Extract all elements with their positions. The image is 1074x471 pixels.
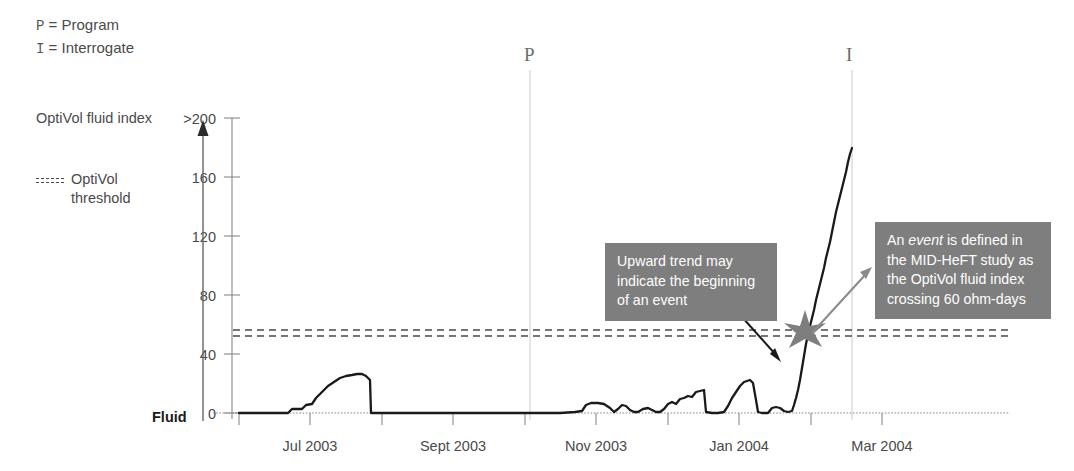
event-definition-callout: An event is defined in the MID-HeFT stud… <box>875 222 1051 319</box>
x-axis-ticks <box>239 413 882 425</box>
event-definition-pre: An <box>887 232 908 248</box>
upward-trend-arrow <box>742 317 781 362</box>
upward-trend-callout: Upward trend may indicate the beginning … <box>605 243 777 321</box>
upward-trend-callout-line-3: of an event <box>617 291 765 311</box>
upward-trend-callout-line-2: indicate the beginning <box>617 272 765 292</box>
event-definition-emphasis: event <box>908 232 943 248</box>
y-axis-arrowhead-icon <box>198 120 209 136</box>
event-star-marker <box>784 310 826 348</box>
upward-trend-callout-line-1: Upward trend may <box>617 252 765 272</box>
